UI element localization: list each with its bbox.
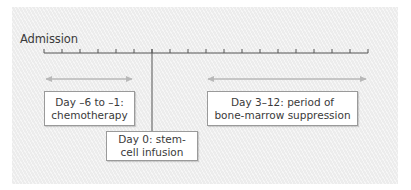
stem-cell-callout-line-2: cell infusion [107,146,197,159]
stem-cell-callout-line-1: Day 0: stem- [107,133,197,146]
chemotherapy-callout-line-2: chemotherapy [45,109,134,122]
suppression-callout-line-1: Day 3–12: period of [208,96,357,109]
suppression-callout-line-2: bone-marrow suppression [208,109,357,122]
bone-marrow-suppression-callout: Day 3–12: period of bone-marrow suppress… [207,91,358,126]
chemotherapy-callout: Day –6 to –1: chemotherapy [44,91,135,126]
tick-marks [44,49,368,53]
chemotherapy-callout-line-1: Day –6 to –1: [45,96,134,109]
stem-cell-infusion-callout: Day 0: stem- cell infusion [106,131,198,161]
